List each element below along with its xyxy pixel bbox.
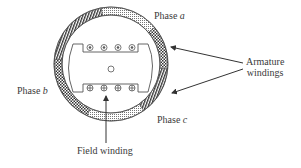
label-armature-line2: windings — [246, 67, 284, 78]
arrow-armature-lower — [172, 69, 243, 93]
field-conductors-out — [87, 45, 135, 51]
label-field-winding: Field winding — [77, 145, 133, 156]
label-phase-c: Phase c — [157, 114, 187, 125]
arrow-armature-upper — [171, 47, 243, 63]
field-conductors-in — [87, 85, 135, 91]
conductor-dot-icon — [101, 45, 107, 51]
conductor-cross-icon — [115, 85, 121, 91]
conductor-dot-icon — [115, 45, 121, 51]
conductor-dot-icon — [87, 45, 93, 51]
machine-diagram — [0, 0, 301, 168]
label-phase-b: Phase b — [17, 85, 48, 96]
label-armature-line1: Armature — [246, 56, 284, 67]
conductor-cross-icon — [87, 85, 93, 91]
label-armature-windings: Armature windings — [246, 56, 284, 78]
label-phase-a: Phase a — [154, 10, 185, 21]
conductor-cross-icon — [129, 85, 135, 91]
conductor-cross-icon — [101, 85, 107, 91]
shaft-icon — [108, 66, 114, 72]
conductor-dot-icon — [129, 45, 135, 51]
